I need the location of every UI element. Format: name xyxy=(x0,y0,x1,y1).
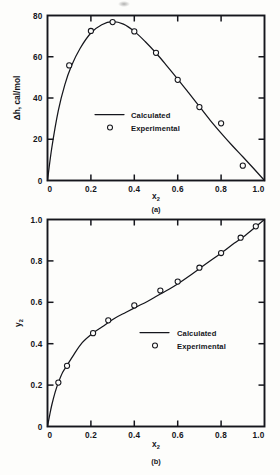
data-point-marker xyxy=(90,331,95,336)
y-tick-labels-b: 00.20.40.60.81.0 xyxy=(31,216,43,432)
figure-container: 00.20.40.60.81.0 020406080 x2 Δh, cal/mo… xyxy=(0,0,280,475)
chart-b-plot-area xyxy=(48,220,265,427)
x-tick-label: 0 xyxy=(48,185,53,194)
x-tick-label: 1.0 xyxy=(253,185,265,194)
data-point-marker xyxy=(240,163,245,168)
data-point-marker xyxy=(175,77,180,82)
y-tick-label: 0.2 xyxy=(31,381,43,390)
data-point-marker xyxy=(175,279,180,284)
y-tick-label: 40 xyxy=(33,94,43,103)
data-point-marker xyxy=(132,29,137,34)
y-tick-label: 1.0 xyxy=(31,216,43,225)
data-point-marker xyxy=(238,235,243,240)
chart-a-svg: 00.20.40.60.81.0 020406080 x2 Δh, cal/mo… xyxy=(0,0,280,215)
y-axis-label-b: y2 xyxy=(13,319,24,327)
data-point-marker xyxy=(88,28,93,33)
legend-label-calculated-b: Calculated xyxy=(177,329,217,338)
legend-label-calculated-a: Calculated xyxy=(131,111,171,120)
axis-ticks-a xyxy=(48,16,265,181)
legend-label-experimental-a: Experimental xyxy=(131,124,180,133)
x-tick-label: 0 xyxy=(48,431,53,440)
data-point-marker xyxy=(106,318,111,323)
y-tick-labels-a: 020406080 xyxy=(33,12,43,186)
legend-marker-swatch-a xyxy=(108,125,113,130)
experimental-points-a xyxy=(67,20,246,169)
data-point-marker xyxy=(64,363,69,368)
chart-a-plot-area xyxy=(48,16,265,181)
panel-caption-b: (b) xyxy=(151,457,161,466)
x-tick-label: 0.8 xyxy=(215,431,227,440)
data-point-marker xyxy=(158,288,163,293)
y-tick-label: 20 xyxy=(33,135,43,144)
y-axis-label-a: Δh, cal/mol xyxy=(12,76,22,121)
x-axis-label-b: x2 xyxy=(152,439,160,450)
data-point-marker xyxy=(219,250,224,255)
x-axis-label-a: x2 xyxy=(152,191,160,202)
x-tick-label: 0.8 xyxy=(215,185,227,194)
plot-frame-b xyxy=(48,220,265,427)
axis-ticks-b xyxy=(48,220,265,427)
data-point-marker xyxy=(153,50,158,55)
x-tick-label: 0.6 xyxy=(172,185,184,194)
data-point-marker xyxy=(197,104,202,109)
legend-b: Calculated Experimental xyxy=(140,329,226,351)
x-tick-label: 0.2 xyxy=(85,431,97,440)
y-tick-label: 80 xyxy=(33,12,43,21)
y-tick-label: 60 xyxy=(33,53,43,62)
data-point-marker xyxy=(56,380,61,385)
legend-label-experimental-b: Experimental xyxy=(177,342,226,351)
plot-frame-a xyxy=(48,16,265,181)
calculated-curve-b xyxy=(48,220,265,427)
chart-b-svg: 00.20.40.60.81.0 00.20.40.60.81.0 x2 y2 … xyxy=(0,208,280,475)
x-tick-label: 0.4 xyxy=(128,185,140,194)
legend-marker-swatch-b xyxy=(153,343,158,348)
x-tick-label: 0.4 xyxy=(128,431,140,440)
data-point-marker xyxy=(219,121,224,126)
data-point-marker xyxy=(67,63,72,68)
data-point-marker xyxy=(197,265,202,270)
legend-a: Calculated Experimental xyxy=(95,111,180,133)
y-tick-label: 0.8 xyxy=(31,257,43,266)
data-point-marker xyxy=(132,303,137,308)
chart-panel-a: 00.20.40.60.81.0 020406080 x2 Δh, cal/mo… xyxy=(0,0,280,215)
y-tick-label: 0 xyxy=(38,423,43,432)
calculated-curve-a xyxy=(48,22,265,181)
y-tick-label: 0.6 xyxy=(31,298,43,307)
data-point-marker xyxy=(253,224,258,229)
x-tick-label: 1.0 xyxy=(253,431,265,440)
y-tick-label: 0 xyxy=(38,177,43,186)
chart-panel-b: 00.20.40.60.81.0 00.20.40.60.81.0 x2 y2 … xyxy=(0,208,280,475)
x-tick-label: 0.6 xyxy=(172,431,184,440)
data-point-marker xyxy=(110,20,115,25)
y-tick-label: 0.4 xyxy=(31,340,43,349)
x-tick-label: 0.2 xyxy=(85,185,97,194)
